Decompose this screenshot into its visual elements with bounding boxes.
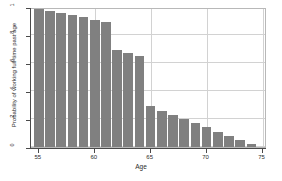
bar <box>168 115 178 147</box>
bar <box>68 15 78 147</box>
bar <box>202 127 212 147</box>
y-axis-tick <box>26 8 30 9</box>
bar <box>157 111 167 147</box>
bar <box>135 56 145 147</box>
y-axis-line <box>30 8 31 148</box>
bar <box>90 20 100 147</box>
bar <box>56 13 66 147</box>
x-axis-tick-label: 65 <box>140 154 160 161</box>
x-axis-tick <box>262 149 263 153</box>
bar <box>247 144 257 147</box>
bar <box>79 17 89 147</box>
bar-chart: 0.2.4.6.81 5560657075 Age Probability of… <box>0 0 282 181</box>
y-axis-title: Probability of working full-time past ag… <box>11 0 17 150</box>
bar <box>45 11 55 147</box>
plot-area <box>30 8 266 148</box>
bar <box>34 8 44 147</box>
bar <box>179 119 189 147</box>
x-axis-tick <box>150 149 151 153</box>
x-axis-tick-label: 55 <box>28 154 48 161</box>
x-axis-tick <box>206 149 207 153</box>
y-axis-tick <box>26 36 30 37</box>
bar <box>123 53 133 147</box>
x-axis-tick-label: 60 <box>84 154 104 161</box>
x-axis-tick-label: 70 <box>196 154 216 161</box>
bar <box>224 136 234 147</box>
y-axis-tick <box>26 120 30 121</box>
bar <box>101 22 111 147</box>
bar <box>146 106 156 147</box>
x-axis-tick <box>94 149 95 153</box>
bar <box>213 132 223 147</box>
bar <box>191 123 201 147</box>
bar <box>112 50 122 147</box>
x-axis-title: Age <box>0 163 282 170</box>
bar-series <box>31 9 265 147</box>
y-axis-tick <box>26 92 30 93</box>
y-axis-tick <box>26 64 30 65</box>
x-axis-tick <box>38 149 39 153</box>
x-axis-tick-label: 75 <box>252 154 272 161</box>
bar <box>235 140 245 147</box>
x-axis-line <box>30 148 266 149</box>
